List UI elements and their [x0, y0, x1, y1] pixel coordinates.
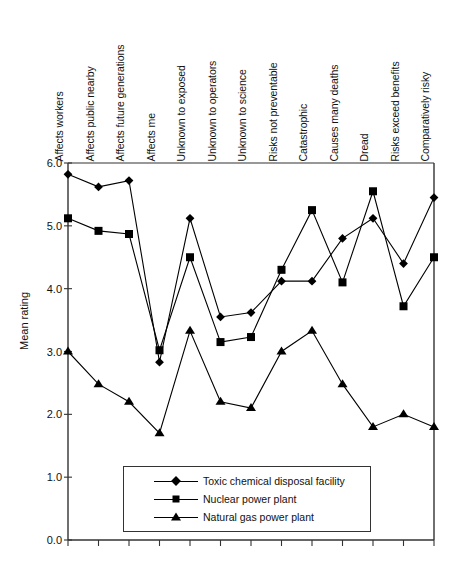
y-tick-label-6: 6.0	[28, 158, 62, 169]
series-2	[63, 326, 439, 436]
data-point-2-4	[185, 326, 195, 334]
data-point-1-1	[95, 227, 103, 235]
x-axis-label-9: Causes many deaths	[328, 64, 339, 161]
x-axis-label-4: Unknown to exposed	[176, 65, 187, 161]
legend-symbol-square	[173, 496, 180, 503]
data-point-2-2	[124, 397, 134, 405]
legend-label-2: Natural gas power plant	[203, 511, 314, 523]
legend-symbol-triangle	[171, 513, 181, 521]
series-line-2	[68, 331, 434, 433]
legend-label-1: Nuclear power plant	[203, 493, 296, 505]
data-point-0-8	[308, 277, 317, 286]
legend-marker-square-icon	[154, 493, 198, 505]
data-point-0-10	[369, 214, 378, 223]
x-axis-label-8: Catastrophic	[298, 103, 309, 161]
mean-rating-line-chart: Affects workersAffects public nearbyAffe…	[0, 0, 459, 584]
data-point-0-0	[64, 170, 73, 179]
data-point-0-12	[430, 193, 439, 202]
data-point-0-9	[338, 234, 347, 243]
y-tick-label-1: 1.0	[28, 472, 62, 483]
y-tick-label-2: 2.0	[28, 409, 62, 420]
y-tick-label-5: 5.0	[28, 220, 62, 231]
legend-marker-triangle-icon	[154, 511, 198, 523]
legend-item-2[interactable]: Natural gas power plant	[154, 508, 370, 526]
x-axis-label-7: Risks not preventable	[267, 62, 278, 161]
data-point-1-8	[308, 206, 316, 214]
chart-legend: Toxic chemical disposal facilityNuclear …	[123, 466, 371, 532]
legend-label-0: Toxic chemical disposal facility	[203, 475, 345, 487]
data-point-0-4	[186, 214, 195, 223]
data-point-2-11	[399, 409, 409, 417]
data-point-1-0	[64, 214, 72, 222]
data-point-2-9	[338, 379, 348, 387]
data-point-1-6	[247, 333, 255, 341]
y-axis-title: Mean rating	[18, 292, 30, 350]
legend-marker-diamond-icon	[154, 475, 198, 487]
data-point-1-7	[278, 266, 286, 274]
series-line-1	[68, 191, 434, 350]
y-tick-label-4: 4.0	[28, 283, 62, 294]
data-point-1-2	[125, 230, 133, 238]
x-axis-label-2: Affects future generations	[115, 44, 126, 161]
x-axis-category-labels: Affects workersAffects public nearbyAffe…	[0, 0, 459, 163]
data-point-2-0	[63, 347, 73, 355]
x-axis-label-3: Affects me	[145, 113, 156, 161]
data-point-0-11	[399, 259, 408, 268]
data-point-1-11	[400, 302, 408, 310]
data-point-2-8	[307, 326, 317, 334]
legend-symbol-diamond	[171, 476, 181, 486]
data-point-1-12	[430, 253, 438, 261]
data-point-2-5	[216, 397, 226, 405]
data-point-1-4	[186, 253, 194, 261]
y-tick-label-0: 0.0	[28, 535, 62, 546]
data-point-0-3	[155, 358, 164, 367]
y-tick-label-3: 3.0	[28, 346, 62, 357]
x-axis-label-12: Comparatively risky	[420, 71, 431, 161]
data-point-0-2	[125, 176, 134, 185]
data-point-1-3	[156, 346, 164, 354]
x-axis-label-5: Unknown to operators	[206, 60, 217, 161]
x-axis-label-6: Unknown to science	[237, 69, 248, 161]
data-point-0-5	[216, 313, 225, 322]
data-point-1-9	[339, 278, 347, 286]
x-axis-label-1: Affects public nearby	[84, 66, 95, 161]
legend-item-1[interactable]: Nuclear power plant	[154, 490, 370, 508]
x-axis-label-10: Dread	[359, 133, 370, 161]
legend-item-0[interactable]: Toxic chemical disposal facility	[154, 472, 370, 490]
data-point-1-10	[369, 187, 377, 195]
series-1	[64, 187, 438, 354]
data-point-2-7	[277, 347, 287, 355]
x-axis-label-11: Risks exceed benefits	[389, 61, 400, 161]
data-point-0-1	[94, 182, 103, 191]
data-point-1-5	[217, 338, 225, 346]
